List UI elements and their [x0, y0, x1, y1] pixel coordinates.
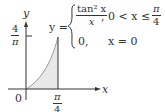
origin-label: 0: [15, 93, 22, 104]
equation-lhs: y =: [49, 22, 68, 33]
case1-comma: ,: [101, 11, 105, 22]
x-axis-arrow-icon: [95, 87, 101, 91]
x-tick-label: π 4: [53, 92, 62, 112]
shaded-region: [26, 37, 58, 89]
y-axis-arrow-icon: [24, 21, 28, 27]
case2-value: 0,: [78, 36, 89, 47]
case2-condition: x = 0: [108, 36, 137, 47]
x-axis-label: x: [102, 84, 108, 95]
brace: [68, 5, 75, 48]
case1-condition-fraction: π 4: [152, 4, 161, 27]
case1-condition: 0 < x ≤: [108, 11, 150, 22]
y-axis-label: y: [23, 8, 29, 19]
y-tick-label: 4 π: [11, 24, 19, 47]
